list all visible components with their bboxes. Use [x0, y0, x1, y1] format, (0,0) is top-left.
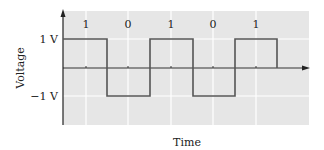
ytick-label-negative: −1 V [30, 90, 59, 103]
y-axis-label: Voltage [14, 47, 27, 90]
bit-label: 1 [253, 18, 260, 31]
bit-label: 0 [210, 18, 217, 31]
ytick-label-positive: 1 V [40, 33, 59, 46]
bit-label: 1 [168, 18, 175, 31]
bit-label: 1 [83, 18, 90, 31]
signal-diagram: 1 0 1 0 1 1 V −1 V Voltage Time [0, 0, 324, 150]
bit-label: 0 [125, 18, 132, 31]
x-axis-label: Time [173, 136, 201, 149]
diagram-svg: 1 0 1 0 1 1 V −1 V Voltage Time [0, 0, 324, 150]
